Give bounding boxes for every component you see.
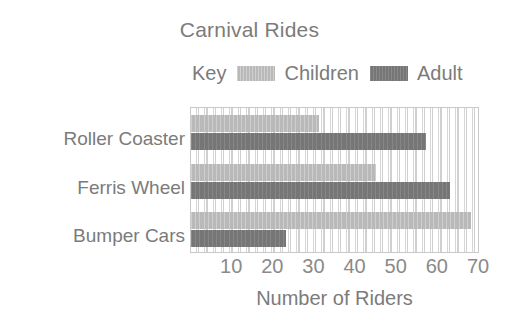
bar-roller-coaster-children [191,115,319,132]
bar-bumper-cars-children [191,212,471,229]
bar-ferris-wheel-children [191,164,376,181]
x-tick-70: 70 [467,255,489,278]
legend-entry-children: Children [237,62,358,85]
x-tick-50: 50 [385,255,407,278]
category-label-roller-coaster: Roller Coaster [0,128,185,150]
chart-screenshot: Carnival Rides Key Children Adult Roller… [0,0,519,332]
legend-label-adult: Adult [417,62,463,85]
x-tick-20: 20 [261,255,283,278]
x-tick-10: 10 [220,255,242,278]
x-tick-40: 40 [343,255,365,278]
x-axis-tick-labels: 10203040506070 [190,255,479,281]
bar-bumper-cars-adult [191,230,286,247]
children-swatch-icon [237,66,275,81]
category-axis-labels: Roller CoasterFerris WheelBumper Cars [0,107,185,253]
plot-area [190,107,479,253]
bar-ferris-wheel-adult [191,182,450,199]
chart-legend: Key Children Adult [192,60,492,86]
chart-title: Carnival Rides [0,18,519,42]
legend-label-children: Children [284,62,358,85]
x-axis-title: Number of Riders [190,287,479,310]
x-tick-30: 30 [302,255,324,278]
legend-entry-adult: Adult [370,62,463,85]
bar-roller-coaster-adult [191,133,426,150]
legend-key-label: Key [192,62,226,85]
category-label-ferris-wheel: Ferris Wheel [0,177,185,199]
adult-swatch-icon [370,66,408,81]
category-label-bumper-cars: Bumper Cars [0,225,185,247]
x-tick-60: 60 [426,255,448,278]
